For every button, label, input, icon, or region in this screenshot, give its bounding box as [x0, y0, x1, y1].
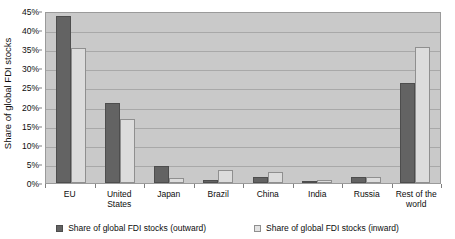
y-axis-tick-labels: 45%40%35%30%25%20%15%10%5%0% [14, 12, 42, 184]
bars-layer [46, 13, 440, 183]
bar-inward [366, 177, 381, 183]
x-axis-tick-mark [144, 184, 145, 188]
x-axis-tick-marks [45, 184, 441, 188]
y-axis-tick-mark [39, 126, 42, 127]
y-axis-tick-mark [39, 50, 42, 51]
y-axis-tick-mark [39, 31, 42, 32]
bar-inward [415, 47, 430, 183]
bar-inward [317, 180, 332, 183]
y-axis-title-label: Share of global FDI stocks [3, 37, 14, 148]
x-axis-category-label: EU [45, 189, 95, 215]
y-axis-tick-label: 20% [22, 103, 39, 113]
bar-inward [218, 170, 233, 183]
y-axis-tick-label: 35% [22, 45, 39, 55]
x-axis-category-label: Russia [342, 189, 392, 215]
y-axis-tick-label: 45% [22, 7, 39, 17]
bar-group [391, 13, 440, 183]
x-axis-tick-mark [293, 184, 294, 188]
bar-outward [351, 177, 366, 183]
bar-group [292, 13, 341, 183]
bar-outward [154, 166, 169, 183]
bar-group [95, 13, 144, 183]
x-axis-tick-mark [392, 184, 393, 188]
plot-area [45, 12, 441, 184]
legend-swatch-inward-icon [254, 225, 261, 232]
legend-label: Share of global FDI stocks (inward) [266, 223, 399, 233]
x-axis-category-label: India [293, 189, 343, 215]
legend-entry: Share of global FDI stocks (outward) [56, 223, 206, 233]
y-axis-tick-label: 30% [22, 64, 39, 74]
y-axis-tick-label: 5% [27, 160, 39, 170]
x-axis-category-label: Japan [144, 189, 194, 215]
x-axis-category-label: China [243, 189, 293, 215]
x-axis-tick-mark [45, 184, 46, 188]
y-axis-tick-label: 0% [27, 179, 39, 189]
x-axis-category-label: Brazil [194, 189, 244, 215]
x-axis-tick-mark [441, 184, 442, 188]
x-axis-tick-mark [194, 184, 195, 188]
x-axis-tick-mark [243, 184, 244, 188]
y-axis-tick-mark [39, 164, 42, 165]
x-axis-category-label: United States [95, 189, 145, 215]
bar-inward [120, 119, 135, 183]
bar-outward [302, 181, 317, 183]
y-axis-tick-mark [39, 69, 42, 70]
bar-inward [169, 178, 184, 183]
bar-group [145, 13, 194, 183]
x-axis-tick-mark [95, 184, 96, 188]
chart-legend: Share of global FDI stocks (outward)Shar… [0, 219, 455, 237]
y-axis-tick-label: 15% [22, 122, 39, 132]
legend-label: Share of global FDI stocks (outward) [68, 223, 206, 233]
y-axis-tick-mark [39, 107, 42, 108]
bar-outward [253, 177, 268, 183]
bar-group [342, 13, 391, 183]
bar-inward [268, 172, 283, 183]
bar-group [243, 13, 292, 183]
bar-inward [71, 48, 86, 183]
y-axis-tick-label: 25% [22, 83, 39, 93]
legend-swatch-outward-icon [56, 225, 63, 232]
x-axis-tick-labels: EUUnited StatesJapanBrazilChinaIndiaRuss… [45, 189, 441, 215]
y-axis-tick-mark [39, 88, 42, 89]
y-axis-tick-label: 40% [22, 26, 39, 36]
x-axis-category-label: Rest of the world [392, 189, 442, 215]
bar-outward [400, 83, 415, 183]
y-axis-tick-mark [39, 145, 42, 146]
bar-group [46, 13, 95, 183]
y-axis-tick-label: 10% [22, 141, 39, 151]
y-axis-tick-mark [39, 12, 42, 13]
y-axis-tick-mark [39, 184, 42, 185]
bar-group [194, 13, 243, 183]
bar-outward [105, 103, 120, 183]
x-axis-tick-mark [342, 184, 343, 188]
legend-entry: Share of global FDI stocks (inward) [254, 223, 399, 233]
fdi-stocks-bar-chart: Share of global FDI stocks 45%40%35%30%2… [0, 0, 455, 239]
bar-outward [56, 16, 71, 183]
bar-outward [203, 180, 218, 183]
